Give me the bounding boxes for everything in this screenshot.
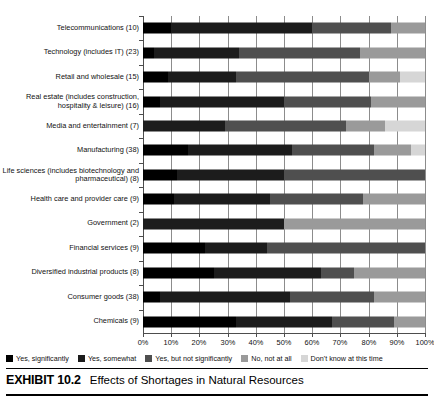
bar-segment bbox=[290, 292, 375, 303]
legend-item: No, not at all bbox=[241, 354, 291, 363]
bar-row bbox=[143, 236, 425, 260]
stacked-bar bbox=[143, 72, 425, 83]
x-axis-tick-label: 20% bbox=[192, 338, 207, 347]
category-label: Technology (includes IT) (23) bbox=[0, 48, 139, 57]
bar-segment bbox=[143, 218, 284, 229]
bar-row bbox=[143, 114, 425, 138]
bar-segment bbox=[143, 121, 225, 132]
bar-segment bbox=[385, 121, 424, 132]
bar-segment bbox=[371, 96, 425, 107]
bar-segment bbox=[160, 292, 290, 303]
bar-segment bbox=[188, 145, 292, 156]
bar-segment bbox=[411, 145, 425, 156]
chart-plot-area bbox=[143, 16, 425, 334]
bar-segment bbox=[174, 194, 270, 205]
x-axis-tick-label: 50% bbox=[277, 338, 292, 347]
legend-label: Don't know at this time bbox=[311, 354, 383, 363]
chart-legend: Yes, significantlyYes, somewhatYes, but … bbox=[6, 352, 430, 364]
bar-segment bbox=[143, 267, 214, 278]
bar-segment bbox=[205, 243, 267, 254]
stacked-bar bbox=[143, 47, 425, 58]
bar-segment bbox=[143, 243, 205, 254]
x-axis-tick-label: 10% bbox=[164, 338, 179, 347]
stacked-bar bbox=[143, 169, 425, 180]
legend-label: No, not at all bbox=[251, 354, 291, 363]
bar-segment bbox=[143, 23, 171, 34]
bar-segment bbox=[394, 316, 425, 327]
legend-label: Yes, significantly bbox=[16, 354, 69, 363]
bar-segment bbox=[236, 72, 369, 83]
exhibit-title: Effects of Shortages in Natural Resource… bbox=[90, 374, 304, 386]
category-label: Financial services (9) bbox=[0, 244, 139, 253]
exhibit-number: EXHIBIT 10.2 bbox=[6, 373, 81, 387]
bar-segment bbox=[143, 96, 160, 107]
x-axis-tick-labels: 0%10%20%30%40%50%60%70%80%90%100% bbox=[143, 337, 425, 349]
bar-rows bbox=[143, 16, 425, 334]
x-axis-tick bbox=[425, 333, 426, 337]
category-label: Health care and provider care (9) bbox=[0, 195, 139, 204]
bar-segment bbox=[239, 47, 360, 58]
bar-segment bbox=[143, 72, 168, 83]
bar-segment bbox=[346, 121, 385, 132]
bar-segment bbox=[400, 72, 425, 83]
bar-segment bbox=[292, 145, 374, 156]
category-label: Telecommunications (10) bbox=[0, 24, 139, 33]
category-labels: Telecommunications (10)Technology (inclu… bbox=[0, 16, 139, 334]
legend-item: Yes, somewhat bbox=[78, 354, 136, 363]
x-axis-tick bbox=[397, 333, 398, 337]
bar-segment bbox=[374, 292, 425, 303]
bar-row bbox=[143, 16, 425, 40]
stacked-bar bbox=[143, 243, 425, 254]
caption: EXHIBIT 10.2 Effects of Shortages in Nat… bbox=[6, 373, 430, 387]
bar-segment bbox=[284, 169, 425, 180]
category-label: Government (2) bbox=[0, 219, 139, 228]
bar-segment bbox=[369, 72, 400, 83]
bar-segment bbox=[332, 316, 394, 327]
x-axis-tick bbox=[284, 333, 285, 337]
x-axis-tick bbox=[143, 333, 144, 337]
bar-segment bbox=[171, 23, 312, 34]
bar-segment bbox=[143, 194, 174, 205]
bar-segment bbox=[225, 121, 346, 132]
bar-row bbox=[143, 40, 425, 64]
bar-segment bbox=[214, 267, 321, 278]
category-label: Diversified industrial products (8) bbox=[0, 268, 139, 277]
x-axis-tick bbox=[171, 333, 172, 337]
category-label: Manufacturing (38) bbox=[0, 146, 139, 155]
legend-swatch bbox=[301, 355, 308, 362]
legend-item: Don't know at this time bbox=[301, 354, 383, 363]
bar-segment bbox=[354, 267, 425, 278]
bar-row bbox=[143, 65, 425, 89]
x-axis-tick-label: 70% bbox=[333, 338, 348, 347]
bar-segment bbox=[391, 23, 425, 34]
x-axis-tick-label: 80% bbox=[362, 338, 377, 347]
bar-segment bbox=[160, 96, 284, 107]
legend-swatch bbox=[78, 355, 85, 362]
bar-segment bbox=[143, 47, 154, 58]
x-axis-tick bbox=[199, 333, 200, 337]
bar-row bbox=[143, 309, 425, 333]
x-axis-tick bbox=[228, 333, 229, 337]
x-axis-tick-label: 60% bbox=[305, 338, 320, 347]
bar-row bbox=[143, 212, 425, 236]
bar-segment bbox=[177, 169, 284, 180]
x-axis-tick-label: 40% bbox=[249, 338, 264, 347]
stacked-bar bbox=[143, 316, 425, 327]
bar-segment bbox=[284, 218, 425, 229]
stacked-bar bbox=[143, 121, 425, 132]
bar-segment bbox=[143, 169, 177, 180]
bar-segment bbox=[267, 243, 425, 254]
x-axis-tick bbox=[312, 333, 313, 337]
stacked-bar bbox=[143, 267, 425, 278]
legend-label: Yes, but not significantly bbox=[155, 354, 232, 363]
category-label: Consumer goods (38) bbox=[0, 293, 139, 302]
bar-row bbox=[143, 163, 425, 187]
bar-row bbox=[143, 285, 425, 309]
bar-segment bbox=[168, 72, 236, 83]
bar-segment bbox=[363, 194, 425, 205]
legend-swatch bbox=[241, 355, 248, 362]
caption-rule-bottom bbox=[6, 394, 428, 396]
category-label: Retail and wholesale (15) bbox=[0, 73, 139, 82]
bar-segment bbox=[143, 316, 236, 327]
stacked-bar bbox=[143, 292, 425, 303]
